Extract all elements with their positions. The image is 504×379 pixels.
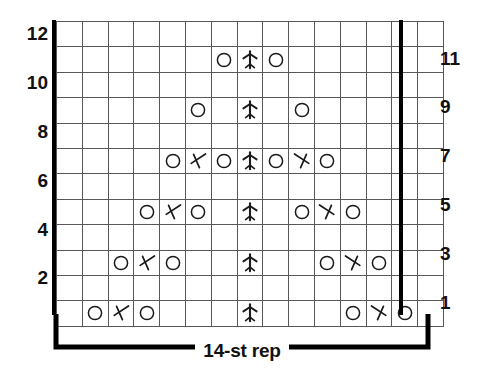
chart-cell-r3-c2 [82, 250, 108, 275]
chart-cell-r5-c11 [314, 199, 340, 224]
chart-cell-r10-c4 [134, 72, 160, 97]
chart-cell-r4-c2 [82, 225, 108, 250]
chart-cell-r5-c9 [263, 199, 289, 224]
chart-cell-r8-c14 [392, 123, 418, 148]
chart-row-2 [57, 275, 444, 300]
row-number-right-1: 1 [440, 293, 480, 312]
chart-row-4 [57, 225, 444, 250]
chart-cell-r5-c4 [134, 199, 160, 224]
yarn-over-symbol [289, 200, 314, 224]
chart-cell-r2-c2 [82, 275, 108, 300]
chart-cell-r12-c10 [289, 22, 315, 47]
chart-cell-r12-c6 [185, 22, 211, 47]
chart-cell-r11-c2 [82, 47, 108, 72]
centered-double-decrease-symbol [238, 98, 263, 122]
chart-cell-r7-c2 [82, 148, 108, 173]
chart-cell-r4-c4 [134, 225, 160, 250]
chart-left-border [52, 20, 56, 315]
chart-cell-r6-c7 [211, 174, 237, 199]
chart-cell-r6-c8 [237, 174, 263, 199]
repeat-bracket: 14-st rep [52, 314, 432, 358]
chart-cell-r4-c9 [263, 225, 289, 250]
chart-cell-r11-c13 [366, 47, 392, 72]
row-number-right-3: 3 [440, 244, 480, 263]
chart-cell-r8-c8 [237, 123, 263, 148]
repeat-boundary-line [399, 20, 403, 315]
chart-cell-r3-c6 [185, 250, 211, 275]
chart-cell-r5-c3 [108, 199, 134, 224]
chart-cell-r9-c10 [289, 98, 315, 123]
chart-cell-r4-c5 [160, 225, 186, 250]
chart-grid [56, 21, 444, 327]
knitting-chart: 12108642 1197531 14-st rep [0, 0, 504, 379]
chart-cell-r7-c3 [108, 148, 134, 173]
chart-cell-r2-c1 [57, 275, 83, 300]
chart-cell-r11-c7 [211, 47, 237, 72]
chart-cell-r4-c13 [366, 225, 392, 250]
chart-cell-r9-c8 [237, 98, 263, 123]
chart-cell-r8-c10 [289, 123, 315, 148]
chart-cell-r2-c7 [211, 275, 237, 300]
chart-cell-r9-c11 [314, 98, 340, 123]
chart-row-5 [57, 199, 444, 224]
chart-cell-r10-c9 [263, 72, 289, 97]
chart-cell-r2-c4 [134, 275, 160, 300]
chart-cell-r5-c6 [185, 199, 211, 224]
chart-cell-r5-c7 [211, 199, 237, 224]
chart-cell-r6-c3 [108, 174, 134, 199]
chart-cell-r3-c5 [160, 250, 186, 275]
chart-cell-r12-c2 [82, 22, 108, 47]
chart-cell-r10-c13 [366, 72, 392, 97]
row-number-right-7: 7 [440, 146, 480, 165]
chart-cell-r6-c13 [366, 174, 392, 199]
chart-row-3 [57, 250, 444, 275]
chart-cell-r3-c14 [392, 250, 418, 275]
yarn-over-symbol [160, 251, 185, 275]
row-number-left-4: 4 [8, 220, 48, 239]
chart-cell-r2-c6 [185, 275, 211, 300]
chart-cell-r5-c10 [289, 199, 315, 224]
chart-cell-r8-c1 [57, 123, 83, 148]
chart-cell-r8-c12 [340, 123, 366, 148]
yarn-over-symbol [367, 251, 392, 275]
chart-cell-r12-c13 [366, 22, 392, 47]
row-number-left-12: 12 [8, 24, 48, 43]
chart-cell-r11-c9 [263, 47, 289, 72]
chart-cell-r12-c12 [340, 22, 366, 47]
yarn-over-symbol [212, 47, 237, 71]
chart-cell-r7-c9 [263, 148, 289, 173]
chart-cell-r8-c7 [211, 123, 237, 148]
chart-cell-r11-c1 [57, 47, 83, 72]
yarn-over-symbol [263, 47, 288, 71]
chart-cell-r11-c14 [392, 47, 418, 72]
chart-cell-r11-c8 [237, 47, 263, 72]
chart-cell-r9-c1 [57, 98, 83, 123]
chart-cell-r2-c5 [160, 275, 186, 300]
chart-cell-r9-c7 [211, 98, 237, 123]
chart-cell-r12-c8 [237, 22, 263, 47]
chart-cell-r3-c10 [289, 250, 315, 275]
chart-cell-r9-c6 [185, 98, 211, 123]
chart-cell-r7-c10 [289, 148, 315, 173]
yarn-over-symbol [315, 149, 340, 173]
yarn-over-symbol [109, 251, 134, 275]
chart-cell-r12-c9 [263, 22, 289, 47]
chart-cell-r5-c1 [57, 199, 83, 224]
chart-cell-r6-c11 [314, 174, 340, 199]
yarn-over-symbol [186, 200, 211, 224]
yarn-over-symbol [341, 200, 366, 224]
chart-cell-r2-c10 [289, 275, 315, 300]
row-number-right-5: 5 [440, 195, 480, 214]
yarn-over-symbol [212, 149, 237, 173]
chart-cell-r9-c13 [366, 98, 392, 123]
chart-cell-r2-c14 [392, 275, 418, 300]
chart-cell-r6-c4 [134, 174, 160, 199]
chart-cell-r6-c12 [340, 174, 366, 199]
chart-cell-r11-c10 [289, 47, 315, 72]
chart-cell-r9-c5 [160, 98, 186, 123]
row-number-left-2: 2 [8, 268, 48, 287]
chart-row-6 [57, 174, 444, 199]
chart-cell-r7-c14 [392, 148, 418, 173]
chart-cell-r2-c12 [340, 275, 366, 300]
chart-cell-r9-c14 [392, 98, 418, 123]
